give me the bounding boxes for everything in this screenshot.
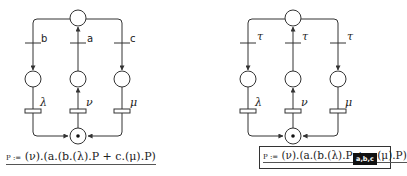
petri-net-left [25,10,130,144]
timed-transition-nu [70,109,86,113]
timed-transition-lambda [240,109,256,113]
label-tau-middle: τ [302,30,309,43]
place-right [114,71,130,87]
place-middle [70,71,86,87]
label-b: b [41,33,47,44]
label-a: a [87,33,93,44]
label-tau-right: τ [347,30,354,43]
timed-transition-mu [114,109,130,113]
formula-prefix: P := [263,153,278,161]
label-tau-left: τ [257,30,264,43]
formula-left: P := (ν).(a.(b.(λ).P + c.(μ).P) [6,150,156,165]
place-top [285,10,301,26]
rate-mu: μ [345,96,352,109]
formula-right: P := (ν).(a.(b.(λ).P + c.(μ).P) [263,149,407,163]
place-left [240,71,256,87]
formula-body: (ν).(a.(b.(λ).P + c.(μ).P) [282,149,407,161]
timed-transition-mu [330,109,346,113]
place-middle [285,71,301,87]
rate-lambda: λ [254,96,262,109]
token [76,134,80,138]
formula-prefix: P := [6,154,21,162]
place-right [330,71,346,87]
rate-nu: ν [301,96,308,109]
rate-nu: ν [86,96,93,109]
rate-lambda: λ [39,96,47,109]
timed-transition-lambda [25,109,41,113]
place-left [25,71,41,87]
rate-mu: μ [130,96,137,109]
hidden-actions-badge: a,b,c [353,153,377,165]
petri-net-right [240,10,346,144]
place-top [70,10,86,26]
timed-transition-nu [285,109,301,113]
token [291,134,295,138]
label-c: c [130,33,136,44]
formula-body: (ν).(a.(b.(λ).P + c.(μ).P) [25,150,156,163]
